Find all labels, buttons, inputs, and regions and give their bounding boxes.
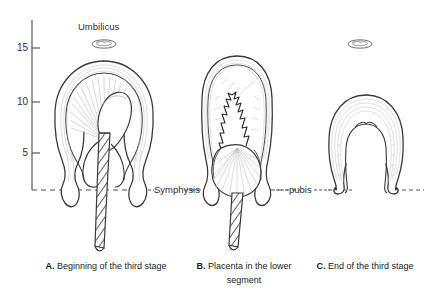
panel-c-caption-text: End of the third stage	[328, 261, 414, 271]
axis-tick-label-10: 10	[8, 97, 28, 107]
umbilicus-marker-right	[348, 40, 372, 48]
symphysis-label: Symphysis	[154, 185, 200, 195]
illustration-canvas	[0, 0, 428, 300]
umbilicus-label: Umbilicus	[78, 22, 119, 32]
vertical-scale-axis	[32, 20, 40, 190]
umbilical-cord-a	[95, 133, 110, 251]
pubis-label: pubis	[289, 185, 312, 195]
panel-a-illustration	[55, 61, 153, 251]
panel-a-caption-text: Beginning of the third stage	[57, 261, 167, 271]
panel-a-caption: A. Beginning of the third stage	[22, 262, 190, 271]
panel-c-illustration	[329, 95, 403, 194]
panel-b-caption-line2: segment	[180, 276, 308, 285]
axis-tick-label-5: 5	[8, 148, 28, 158]
umbilicus-marker-left	[92, 40, 116, 48]
panel-b-caption: B. Placenta in the lower	[180, 262, 308, 271]
panel-a-letter: A.	[45, 261, 54, 271]
panel-b-illustration	[202, 56, 273, 250]
panel-c-caption: C. End of the third stage	[305, 262, 425, 271]
panel-c-letter: C.	[316, 261, 325, 271]
panel-b-letter: B.	[196, 261, 205, 271]
axis-tick-label-15: 15	[8, 43, 28, 53]
obstetric-third-stage-figure: 15 10 5 Umbilicus Symphysis pubis A. Beg…	[0, 0, 428, 300]
umbilical-cord-b	[229, 193, 243, 250]
panel-b-caption-text: Placenta in the lower	[208, 261, 292, 271]
